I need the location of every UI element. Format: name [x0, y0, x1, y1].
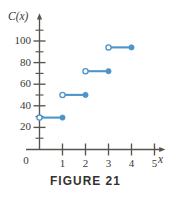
step-series	[37, 45, 134, 120]
x-axis-arrow-icon	[159, 147, 165, 152]
figure-container: 100 80 60 40 20 0 1 2 3 4 5 C(x) x FIGUR…	[0, 0, 171, 197]
x-axis-label: x	[158, 154, 163, 166]
step-4-closed-endpoint	[129, 45, 134, 50]
step-4-open-endpoint	[106, 45, 111, 50]
y-tick-label-40: 40	[0, 100, 31, 111]
figure-caption: FIGURE 21	[10, 173, 160, 188]
step-2-closed-endpoint	[83, 92, 88, 97]
y-axis-label: C(x)	[8, 11, 28, 23]
y-axis-arrow-icon	[37, 13, 42, 19]
step-3-open-endpoint	[83, 69, 88, 74]
x-tick-label-2: 2	[79, 158, 93, 169]
y-tick-label-80: 80	[0, 57, 31, 68]
plot-area: 100 80 60 40 20 0 1 2 3 4 5 C(x) x	[0, 0, 171, 172]
step-1-closed-endpoint	[60, 115, 65, 120]
y-tick-label-100: 100	[0, 35, 31, 46]
origin-label: 0	[19, 155, 33, 166]
y-tick-label-20: 20	[0, 121, 31, 132]
x-tick-label-4: 4	[125, 158, 139, 169]
step-1-open-endpoint	[37, 115, 42, 120]
x-tick-label-3: 3	[102, 158, 116, 169]
step-2-open-endpoint	[60, 92, 65, 97]
x-tick-label-1: 1	[56, 158, 70, 169]
y-tick-label-60: 60	[0, 78, 31, 89]
step-3-closed-endpoint	[106, 69, 111, 74]
